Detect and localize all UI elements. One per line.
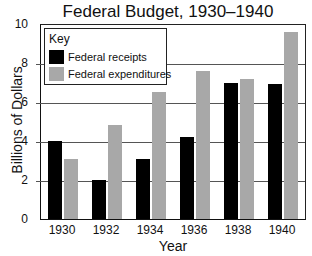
bar-expenditures	[108, 125, 122, 219]
legend: Key Federal receipts Federal expenditure…	[44, 28, 167, 85]
x-tick-label: 1936	[174, 223, 214, 237]
bar-receipts	[48, 141, 62, 219]
x-axis-label: Year	[40, 238, 306, 254]
legend-item-expenditures: Federal expenditures	[49, 67, 171, 81]
bar-receipts	[268, 84, 282, 219]
x-tick-label: 1932	[86, 223, 126, 237]
y-tick-label: 2	[8, 174, 28, 186]
y-tick-label: 0	[8, 213, 28, 225]
bar-receipts	[180, 137, 194, 219]
legend-swatch-expenditures	[49, 67, 64, 81]
y-tick-label: 8	[8, 57, 28, 69]
x-tick-label: 1930	[42, 223, 82, 237]
gridline	[36, 142, 305, 143]
legend-swatch-receipts	[49, 50, 64, 64]
legend-title: Key	[49, 32, 70, 46]
x-tick-label: 1934	[130, 223, 170, 237]
bar-expenditures	[284, 32, 298, 219]
y-tick-label: 6	[8, 96, 28, 108]
y-axis-label: Billions of Dollars	[9, 55, 25, 185]
y-tick-label: 10	[8, 18, 28, 30]
bar-receipts	[136, 159, 150, 219]
bar-receipts	[224, 83, 238, 220]
x-tick-label: 1938	[218, 223, 258, 237]
bar-expenditures	[64, 159, 78, 219]
bar-expenditures	[152, 92, 166, 219]
legend-label: Federal receipts	[68, 50, 147, 64]
y-tick-label: 4	[8, 135, 28, 147]
bar-expenditures	[240, 79, 254, 219]
gridline	[36, 103, 305, 104]
bar-receipts	[92, 180, 106, 219]
legend-item-receipts: Federal receipts	[49, 50, 147, 64]
legend-label: Federal expenditures	[68, 67, 171, 81]
bar-expenditures	[196, 71, 210, 219]
chart-title: Federal Budget, 1930–1940	[0, 2, 312, 22]
x-tick-label: 1940	[262, 223, 302, 237]
